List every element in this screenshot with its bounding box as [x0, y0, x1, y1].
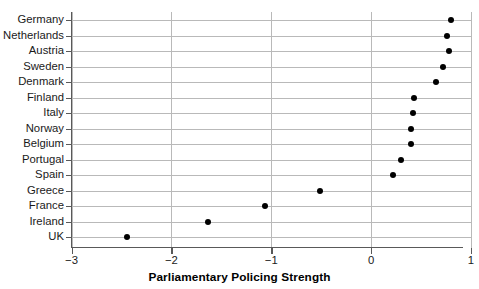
y-axis-label-germany: Germany: [18, 14, 64, 25]
y-axis-label-portugal: Portugal: [22, 154, 64, 165]
y-axis-tick: [66, 67, 72, 68]
x-axis-tick-label: −1: [265, 255, 278, 266]
y-axis-tick: [66, 160, 72, 161]
y-axis-tick: [66, 237, 72, 238]
y-axis-tick: [66, 98, 72, 99]
data-point-netherlands: [444, 33, 450, 39]
y-axis-label-finland: Finland: [27, 92, 64, 103]
data-point-ireland: [205, 219, 211, 225]
x-axis-tick: [471, 248, 472, 254]
y-axis-label-ireland: Ireland: [29, 216, 64, 227]
data-point-germany: [448, 17, 454, 23]
gridline-vertical: [171, 12, 172, 248]
y-axis-tick: [66, 222, 72, 223]
data-point-portugal: [398, 157, 404, 163]
x-axis-tick: [72, 248, 73, 254]
y-axis-tick: [66, 191, 72, 192]
y-axis-tick: [66, 20, 72, 21]
gridline-vertical: [271, 12, 272, 248]
x-axis-tick-label: 1: [468, 255, 474, 266]
y-axis-tick: [66, 175, 72, 176]
y-axis-label-austria: Austria: [29, 45, 64, 56]
x-axis-title: Parliamentary Policing Strength: [0, 270, 479, 284]
y-axis-label-belgium: Belgium: [23, 138, 64, 149]
y-axis-tick: [66, 144, 72, 145]
y-axis-label-uk: UK: [48, 231, 64, 242]
data-point-denmark: [433, 79, 439, 85]
data-point-norway: [408, 126, 414, 132]
y-axis-tick: [66, 206, 72, 207]
x-axis-tick: [171, 248, 172, 254]
data-point-finland: [411, 95, 417, 101]
policing-strength-dot-plot: GermanyNetherlandsAustriaSwedenDenmarkFi…: [0, 0, 479, 289]
y-axis-label-france: France: [29, 200, 64, 211]
y-axis-tick: [66, 113, 72, 114]
x-axis-tick-label: −2: [165, 255, 178, 266]
x-axis-tick-label: −3: [65, 255, 78, 266]
y-axis-tick: [66, 82, 72, 83]
x-axis-tick: [271, 248, 272, 254]
y-axis-tick: [66, 36, 72, 37]
gridline-vertical: [371, 12, 372, 248]
x-axis-tick-label: 0: [368, 255, 374, 266]
x-axis-line: [71, 247, 463, 248]
y-axis-label-norway: Norway: [26, 123, 64, 134]
y-axis-label-italy: Italy: [43, 107, 64, 118]
y-axis-tick: [66, 51, 72, 52]
y-axis-label-netherlands: Netherlands: [3, 30, 64, 41]
data-point-austria: [446, 48, 452, 54]
data-point-sweden: [440, 64, 446, 70]
y-axis-label-greece: Greece: [27, 185, 64, 196]
y-axis-line: [71, 12, 72, 248]
data-point-greece: [317, 188, 323, 194]
y-axis-label-spain: Spain: [35, 169, 64, 180]
gridline-vertical: [471, 12, 472, 248]
y-axis-label-denmark: Denmark: [18, 76, 64, 87]
y-axis-label-sweden: Sweden: [23, 61, 64, 72]
x-axis-tick: [371, 248, 372, 254]
y-axis-tick: [66, 129, 72, 130]
